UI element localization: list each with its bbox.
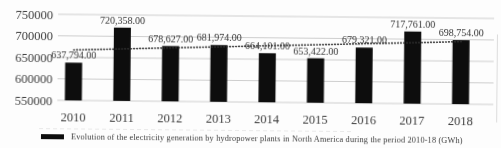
value-label-2014: 664,101.00 bbox=[245, 40, 290, 51]
value-label-2011: 720,358.00 bbox=[100, 14, 145, 25]
legend-caption: Evolution of the electricity generation … bbox=[71, 132, 463, 145]
value-label-2015: 653,422.00 bbox=[293, 45, 338, 56]
x-tick-label-2014: 2014 bbox=[254, 112, 280, 126]
chart-legend: Evolution of the electricity generation … bbox=[41, 132, 463, 145]
x-tick-label-2011: 2011 bbox=[109, 111, 134, 125]
x-tick-label-2013: 2013 bbox=[206, 112, 231, 126]
value-label-2012: 678,627.00 bbox=[148, 33, 193, 44]
value-label-2018: 698,754.00 bbox=[439, 27, 484, 38]
value-label-2013: 681,974.00 bbox=[197, 32, 242, 43]
value-label-2016: 679,321.00 bbox=[342, 34, 387, 45]
bar-2014 bbox=[258, 53, 275, 102]
x-tick-label-2018: 2018 bbox=[448, 114, 473, 128]
y-tick-label-600000: 600000 bbox=[15, 72, 53, 86]
x-tick-label-2017: 2017 bbox=[399, 114, 424, 128]
bar-2016 bbox=[355, 48, 373, 104]
value-label-2017: 717,761.00 bbox=[390, 18, 435, 29]
bar-2011 bbox=[113, 28, 131, 101]
scan-edge-line bbox=[497, 34, 498, 122]
bar-2018 bbox=[452, 40, 470, 104]
scan-tilt-wrapper: 750000700000650000600000550000637,794.00… bbox=[0, 0, 501, 148]
chart-canvas: 750000700000650000600000550000637,794.00… bbox=[0, 0, 501, 135]
bar-2013 bbox=[210, 45, 228, 102]
y-tick-label-750000: 750000 bbox=[16, 7, 54, 21]
x-tick-label-2015: 2015 bbox=[303, 113, 328, 127]
bar-2010 bbox=[65, 63, 82, 101]
x-tick-label-2016: 2016 bbox=[351, 113, 376, 127]
scan-artifact-line bbox=[39, 129, 351, 132]
value-label-2010: 637,794.00 bbox=[51, 49, 96, 60]
x-tick-label-2010: 2010 bbox=[61, 110, 86, 124]
y-tick-label-550000: 550000 bbox=[15, 93, 53, 107]
legend-swatch-black-bar bbox=[41, 134, 64, 139]
bar-2012 bbox=[162, 46, 180, 101]
x-tick-label-2012: 2012 bbox=[157, 111, 182, 125]
scanned-chart-page: 750000700000650000600000550000637,794.00… bbox=[0, 0, 501, 148]
bar-2015 bbox=[307, 58, 324, 103]
y-tick-label-700000: 700000 bbox=[15, 29, 53, 43]
y-tick-label-650000: 650000 bbox=[15, 50, 53, 64]
